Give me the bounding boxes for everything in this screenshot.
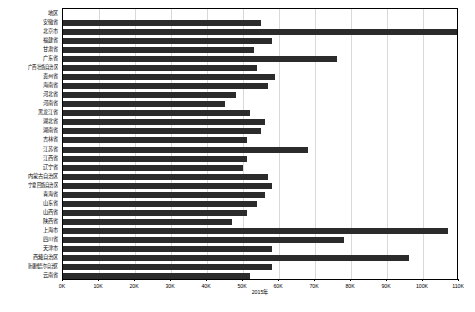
bar — [63, 237, 344, 243]
category-label: 黑龙江省 — [38, 109, 58, 115]
bar-row — [63, 246, 272, 252]
category-label: 河南省 — [43, 100, 58, 106]
bars-layer — [63, 9, 457, 279]
category-label: 四川省 — [43, 236, 58, 242]
category-label: 山东省 — [43, 200, 58, 206]
bar — [63, 156, 247, 162]
category-label: 广东省 — [43, 55, 58, 61]
bar-row — [63, 156, 247, 162]
axis-tick-mark — [170, 279, 171, 281]
bar — [63, 201, 257, 207]
bar — [63, 92, 236, 98]
category-label: 上海市 — [43, 227, 58, 233]
bar — [63, 183, 272, 189]
category-axis: 地区 安徽省北京市福建省甘肃省广东省广西壮族自治区贵州省海南省河北省河南省黑龙江… — [0, 8, 60, 280]
bar — [63, 128, 261, 134]
bar-row — [63, 219, 232, 225]
bar — [63, 29, 458, 35]
plot-area — [62, 8, 458, 280]
axis-tick-mark — [278, 279, 279, 281]
bar-row — [63, 119, 265, 125]
category-label: 甘肃省 — [43, 46, 58, 52]
category-label: 江西省 — [43, 155, 58, 161]
axis-tick-mark — [134, 279, 135, 281]
bar-row — [63, 147, 308, 153]
axis-title: 2015年 — [252, 289, 269, 296]
bar — [63, 246, 272, 252]
category-label: 宁夏回族自治区 — [28, 182, 58, 188]
category-label: 北京市 — [43, 28, 58, 34]
bar — [63, 264, 272, 270]
bar-row — [63, 264, 272, 270]
axis-tick-mark — [386, 279, 387, 281]
axis-tick-label: 20K — [129, 283, 138, 289]
category-label: 福建省 — [43, 37, 58, 43]
category-label: 辽宁省 — [43, 164, 58, 170]
axis-tick-mark — [98, 279, 99, 281]
bar-row — [63, 38, 272, 44]
bar — [63, 219, 232, 225]
bar-row — [63, 74, 275, 80]
bar-row — [63, 137, 247, 143]
bar-chart: 地区 安徽省北京市福建省甘肃省广东省广西壮族自治区贵州省海南省河北省河南省黑龙江… — [0, 0, 475, 312]
axis-tick-label: 30K — [165, 283, 174, 289]
category-label: 内蒙古自治区 — [28, 173, 58, 179]
bar — [63, 56, 337, 62]
bar-row — [63, 92, 236, 98]
bar — [63, 174, 268, 180]
axis-tick-mark — [242, 279, 243, 281]
bar-row — [63, 56, 337, 62]
bar-row — [63, 83, 268, 89]
bar — [63, 273, 250, 279]
category-label: 海南省 — [43, 82, 58, 88]
category-label: 河北省 — [43, 91, 58, 97]
bar-row — [63, 210, 247, 216]
axis-tick-mark — [350, 279, 351, 281]
bar — [63, 74, 275, 80]
category-axis-header: 地区 — [48, 10, 58, 16]
category-label: 新疆维吾尔自治区 — [28, 263, 58, 269]
axis-tick-mark — [62, 279, 63, 281]
bar — [63, 228, 448, 234]
bar-row — [63, 174, 268, 180]
axis-tick-label: 80K — [345, 283, 354, 289]
bar — [63, 165, 243, 171]
category-label: 江苏省 — [43, 146, 58, 152]
category-label: 陕西省 — [43, 218, 58, 224]
axis-tick-mark — [422, 279, 423, 281]
bar — [63, 210, 247, 216]
axis-tick-label: 70K — [309, 283, 318, 289]
axis-tick-label: 60K — [273, 283, 282, 289]
bar-row — [63, 228, 448, 234]
category-label: 广西壮族自治区 — [28, 64, 58, 70]
category-label: 贵州省 — [43, 73, 58, 79]
bar — [63, 65, 257, 71]
category-label: 湖南省 — [43, 127, 58, 133]
category-label: 西藏自治区 — [33, 254, 58, 260]
bar-row — [63, 255, 409, 261]
bar-row — [63, 192, 265, 198]
bar-row — [63, 65, 257, 71]
bar — [63, 83, 268, 89]
bar-row — [63, 237, 344, 243]
category-label: 天津市 — [43, 245, 58, 251]
category-label: 湖北省 — [43, 118, 58, 124]
bar-row — [63, 201, 257, 207]
bar-row — [63, 101, 225, 107]
axis-tick-mark — [206, 279, 207, 281]
bar-row — [63, 183, 272, 189]
axis-tick-label: 100K — [416, 283, 428, 289]
axis-tick-label: 90K — [381, 283, 390, 289]
axis-tick-label: 10K — [93, 283, 102, 289]
category-label: 云南省 — [43, 272, 58, 278]
bar-row — [63, 273, 250, 279]
bar — [63, 47, 254, 53]
bar — [63, 147, 308, 153]
bar-row — [63, 110, 250, 116]
bar — [63, 119, 265, 125]
category-label: 安徽省 — [43, 19, 58, 25]
axis-tick-mark — [314, 279, 315, 281]
bar — [63, 101, 225, 107]
bar — [63, 20, 261, 26]
category-label: 吉林省 — [43, 136, 58, 142]
